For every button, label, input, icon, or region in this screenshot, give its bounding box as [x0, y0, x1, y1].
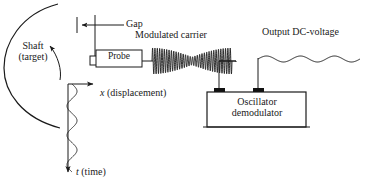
oscillator-label-line1: Oscillator: [237, 96, 276, 107]
output-dc-ripple-trace: [258, 56, 360, 88]
t-time-label: t (time): [76, 166, 106, 177]
shaft-label-line2: (target): [18, 51, 47, 62]
eddy-current-probe-diagram: Shaft (target) Gap Modulated carrier Out…: [0, 0, 369, 190]
oscillator-label-line2: demodulator: [232, 107, 283, 118]
shaft-label: Shaft (target): [2, 40, 64, 62]
probe-label: Probe: [97, 51, 141, 62]
x-displacement-label: x (displacement): [100, 87, 166, 98]
modulated-carrier-label: Modulated carrier: [135, 29, 207, 40]
x-unit: (displacement): [104, 87, 166, 98]
gap-label: Gap: [126, 18, 143, 29]
t-unit: (time): [79, 166, 106, 177]
output-dc-voltage-label: Output DC-voltage: [262, 26, 339, 37]
shaft-outer-arc: [4, 4, 60, 128]
oscillator-demodulator-label: Oscillator demodulator: [209, 96, 305, 118]
shaft-label-line1: Shaft: [22, 40, 43, 51]
